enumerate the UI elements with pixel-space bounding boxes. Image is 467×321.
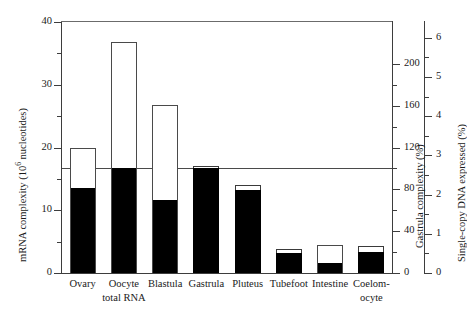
left-axis-major-tick [54,210,62,211]
left-axis-tick-label: 40 [42,16,53,26]
left-axis-title-head: mRNA complexity (10 [17,166,28,262]
right-outer-minor-tick [424,57,429,58]
right-inner-major-tick [392,189,400,190]
left-axis-tick-label: 0 [47,267,52,277]
right-outer-major-tick [424,195,432,196]
right-inner-major-tick [392,273,400,274]
right-outer-tick-label: 5 [436,71,441,81]
left-axis-title: mRNA complexity (106 nucleotides) [14,108,28,262]
right-outer-tick-label: 0 [436,267,441,277]
bar-filled[interactable] [193,168,219,273]
right-outer-tick-label: 3 [436,149,441,159]
right-outer-minor-tick [424,97,429,98]
right-outer-major-tick [424,77,432,78]
bottom-axis-line [61,273,393,274]
right-outer-major-tick [424,273,432,274]
right-inner-major-tick [392,148,400,149]
right-inner-minor-tick [392,168,397,169]
right-inner-tick-label: 0 [404,267,409,277]
plot-area [62,22,392,273]
left-axis-minor-tick [57,179,62,180]
bar-group[interactable] [358,22,384,273]
bar-group[interactable] [111,22,137,273]
left-axis-tick-label: 30 [42,79,53,89]
x-axis-tick-label: ocyte [311,292,431,303]
bar-group[interactable] [193,22,219,273]
right-outer-minor-tick [424,136,429,137]
bar-filled[interactable] [235,190,261,273]
right-inner-tick-label: 200 [404,58,420,68]
right-inner-minor-tick [392,85,397,86]
left-axis-minor-tick [57,242,62,243]
left-axis-minor-tick [57,116,62,117]
left-axis-title-tail: nucleotides) [17,108,28,162]
right-inner-minor-tick [392,127,397,128]
right-outer-minor-tick [424,253,429,254]
bar-filled[interactable] [358,252,384,273]
right-outer-major-tick [424,38,432,39]
left-axis-major-tick [54,273,62,274]
bar-group[interactable] [152,22,178,273]
left-axis-major-tick [54,85,62,86]
right-inner-major-tick [392,231,400,232]
bar-filled[interactable] [276,253,302,273]
bar-filled[interactable] [112,168,136,273]
right-inner-tick-label: 160 [404,100,420,110]
right-inner-minor-tick [392,210,397,211]
right-inner-minor-tick [392,252,397,253]
right-outer-tick-label: 6 [436,32,441,42]
bar-filled[interactable] [318,263,342,273]
right-outer-axis-title: Single-copy DNA expressed (%) [456,124,467,262]
right-outer-major-tick [424,155,432,156]
left-axis-major-tick [54,22,62,23]
right-outer-tick-label: 2 [436,189,441,199]
left-axis-minor-tick [57,53,62,54]
bar-filled[interactable] [153,200,177,273]
right-inner-tick-label: 40 [404,225,415,235]
right-inner-tick-label: 80 [404,183,415,193]
x-axis-tick-label: total RNA [64,292,184,303]
x-axis-tick-label: Coelom- [311,278,431,289]
bar-group[interactable] [276,22,302,273]
left-axis-tick-label: 20 [42,142,53,152]
left-axis-tick-label: 10 [42,204,53,214]
left-axis-title-exponent: 6 [14,162,23,166]
right-inner-major-tick [392,106,400,107]
bar-group[interactable] [70,22,96,273]
right-outer-major-tick [424,234,432,235]
right-inner-major-tick [392,64,400,65]
left-axis-major-tick [54,148,62,149]
bar-filled[interactable] [71,188,95,273]
right-outer-tick-label: 1 [436,228,441,238]
right-inner-axis-title: Gastrula complexity (%) [414,144,425,248]
right-outer-tick-label: 4 [436,110,441,120]
bar-group[interactable] [235,22,261,273]
bar-group[interactable] [317,22,343,273]
right-outer-major-tick [424,116,432,117]
